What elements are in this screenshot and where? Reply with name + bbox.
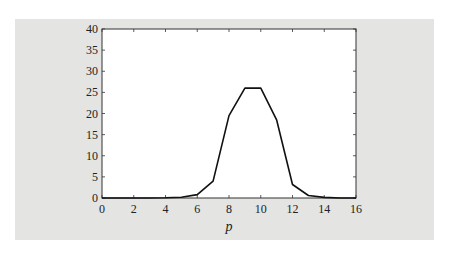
x-tick-label: 8 (226, 202, 232, 216)
y-tick-label: 15 (86, 128, 98, 142)
y-tick-label: 35 (86, 43, 98, 57)
y-tick-label: 20 (86, 107, 98, 121)
x-tick-label: 14 (318, 202, 330, 216)
x-axis-label: p (225, 219, 233, 234)
y-tick-label: 10 (86, 149, 98, 163)
x-tick-label: 2 (131, 202, 137, 216)
y-tick-label: 25 (86, 85, 98, 99)
x-tick-label: 12 (287, 202, 299, 216)
x-tick-label: 4 (163, 202, 169, 216)
x-tick-label: 10 (255, 202, 267, 216)
y-tick-label: 5 (92, 170, 98, 184)
plot-area (102, 29, 356, 198)
y-tick-label: 0 (92, 191, 98, 205)
x-tick-label: 0 (99, 202, 105, 216)
line-chart: 02468101214160510152025303540p (0, 0, 451, 253)
y-tick-label: 40 (86, 22, 98, 36)
x-tick-label: 6 (194, 202, 200, 216)
y-tick-label: 30 (86, 64, 98, 78)
x-tick-label: 16 (350, 202, 362, 216)
